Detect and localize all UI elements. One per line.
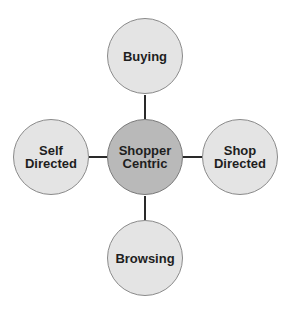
connector-left	[89, 156, 107, 158]
connector-right	[182, 156, 202, 158]
node-buying-label: Buying	[123, 50, 167, 63]
node-browsing: Browsing	[107, 220, 183, 296]
node-right-label-line2: Directed	[214, 157, 266, 170]
node-shopper-centric: Shopper Centric	[107, 119, 183, 195]
node-left-label-line2: Directed	[25, 157, 77, 170]
node-buying: Buying	[107, 18, 183, 94]
node-browsing-label: Browsing	[115, 252, 174, 265]
connector-top	[144, 95, 146, 119]
connector-bottom	[144, 196, 146, 220]
diagram-canvas: Buying Shopper Centric Self Directed Sho…	[0, 0, 291, 314]
node-center-label-line2: Centric	[119, 157, 172, 170]
node-self-directed: Self Directed	[13, 119, 89, 195]
node-shop-directed: Shop Directed	[202, 119, 278, 195]
